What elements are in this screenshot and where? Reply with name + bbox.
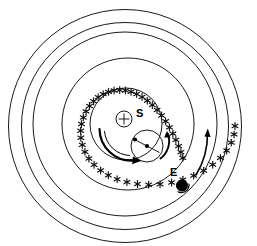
epicycle-body-center <box>145 144 149 148</box>
diagram-canvas: S E <box>0 0 257 246</box>
epicycle-rotation-arrow <box>161 131 171 159</box>
earth-marker <box>174 177 189 192</box>
epicycle-group <box>131 130 163 162</box>
astronomy-diagram-figure: S E <box>0 0 257 246</box>
earth-body-dot <box>176 180 187 191</box>
deferent-rotation-arrow <box>100 129 142 164</box>
epicycle-arrow-arc <box>161 134 170 159</box>
epicycle-body-left <box>133 137 137 141</box>
sun-marker <box>116 111 132 127</box>
earth-label: E <box>170 166 177 178</box>
earth-orbit-arrow-head <box>204 129 210 138</box>
sun-label: S <box>136 107 143 119</box>
